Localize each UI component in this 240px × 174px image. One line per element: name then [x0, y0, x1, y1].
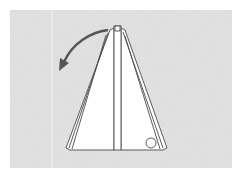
circle-marker-icon: [146, 138, 156, 148]
diagram-canvas: [0, 0, 240, 174]
